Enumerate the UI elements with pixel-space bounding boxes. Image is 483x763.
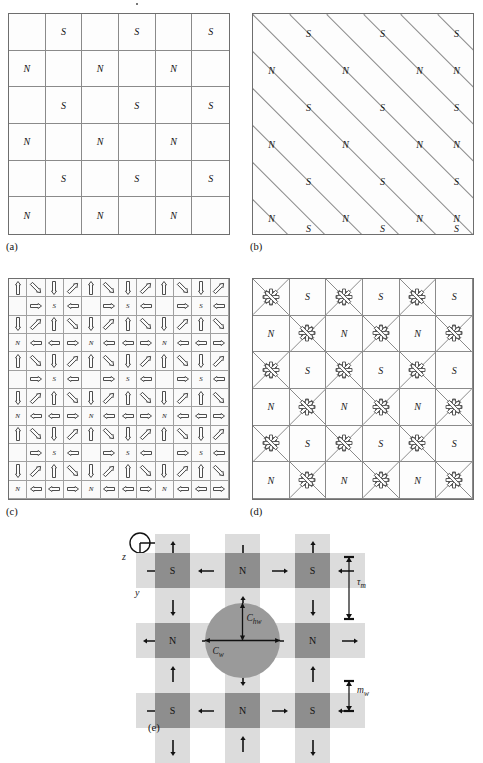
panel-d-cell: S bbox=[363, 426, 400, 463]
pole-label: S bbox=[305, 438, 310, 449]
panel-a-cell bbox=[82, 14, 119, 51]
panel-c-cell bbox=[211, 462, 229, 480]
panel-c-cell bbox=[64, 279, 82, 297]
magnetization-arrow bbox=[99, 424, 120, 445]
starburst-cell bbox=[363, 316, 399, 352]
panel-c-cell bbox=[27, 316, 45, 334]
panel-c-cell: N bbox=[9, 334, 27, 352]
panel-c-cell bbox=[156, 279, 174, 297]
pole-label: S bbox=[199, 375, 203, 383]
panel-c-cell bbox=[137, 352, 155, 370]
panel-c-cell bbox=[64, 316, 82, 334]
pole-label: N bbox=[341, 401, 348, 412]
panel-d-cell bbox=[326, 426, 363, 463]
magnetization-arrow bbox=[84, 463, 98, 478]
pole-label: S bbox=[126, 375, 130, 383]
magnetization-arrow bbox=[121, 427, 135, 442]
pole-label: S bbox=[306, 27, 311, 38]
magnetization-arrow bbox=[157, 280, 171, 295]
pole-label: S bbox=[380, 27, 385, 38]
magnetization-arrow bbox=[48, 482, 61, 496]
pole-label: S bbox=[454, 27, 459, 38]
panel-c-cell bbox=[101, 389, 119, 407]
panel-a-cell: N bbox=[82, 197, 119, 234]
panel-d-cell: N bbox=[326, 316, 363, 353]
magnetization-arrow bbox=[167, 735, 179, 757]
panel-c-cell bbox=[156, 426, 174, 444]
pole-label: S bbox=[452, 365, 457, 376]
panel-c-cell bbox=[101, 334, 119, 352]
magnetization-arrow bbox=[209, 424, 230, 445]
panel-a-cell bbox=[82, 161, 119, 198]
panel-d-cell bbox=[436, 316, 473, 353]
stray-mark bbox=[136, 3, 138, 5]
panel-c-cell: N bbox=[9, 407, 27, 425]
panel-a-cell: S bbox=[46, 87, 83, 124]
pole-label: N bbox=[453, 64, 460, 75]
magnetization-arrow bbox=[66, 336, 79, 350]
pole-label: N bbox=[89, 339, 94, 347]
panel-a-cell: N bbox=[156, 51, 193, 88]
panel-d-cell bbox=[436, 462, 473, 499]
magnetization-arrow bbox=[139, 446, 152, 460]
pole-label: S bbox=[378, 438, 383, 449]
magnetization-arrow bbox=[103, 299, 116, 313]
panel-d-cell bbox=[400, 352, 437, 389]
magnetization-arrow bbox=[172, 314, 193, 335]
magnetization-arrow bbox=[307, 735, 319, 757]
panel-d-cell: S bbox=[290, 279, 327, 316]
pole-label: N bbox=[23, 210, 30, 221]
panel-d-cell bbox=[363, 462, 400, 499]
magnetization-arrow bbox=[176, 336, 189, 350]
panel-c-cell bbox=[27, 444, 45, 462]
pole-label: N bbox=[89, 412, 94, 420]
pole-label: N bbox=[414, 401, 421, 412]
panel-c-cell bbox=[64, 426, 82, 444]
magnetization-arrow bbox=[11, 280, 25, 295]
magnetization-arrow bbox=[139, 336, 152, 350]
panel-a-cell: S bbox=[46, 161, 83, 198]
panel-c-cell bbox=[211, 389, 229, 407]
magnetization-arrow bbox=[103, 336, 116, 350]
coil-width-label: Cw bbox=[213, 646, 224, 659]
magnetization-arrow bbox=[136, 351, 157, 372]
pole-label: S bbox=[53, 449, 57, 457]
panel-a-cell: S bbox=[192, 87, 229, 124]
panel-c-cell: N bbox=[9, 481, 27, 499]
pole-label: S bbox=[306, 223, 311, 234]
pole-label: S bbox=[380, 101, 385, 112]
magnetization-arrow bbox=[26, 277, 47, 298]
pole-label: S bbox=[306, 101, 311, 112]
panel-c-cell bbox=[9, 297, 27, 315]
pole-label: S bbox=[134, 173, 139, 184]
pole-label: N bbox=[416, 64, 423, 75]
panel-c-cell bbox=[174, 334, 192, 352]
starburst-cell bbox=[326, 426, 362, 462]
panel-a-cell bbox=[46, 124, 83, 161]
panel-a-cell bbox=[46, 51, 83, 88]
pole-label: S bbox=[452, 438, 457, 449]
tau-m-label: τm bbox=[357, 577, 366, 590]
magnetization-arrow bbox=[121, 353, 135, 368]
panel-c-cell bbox=[137, 389, 155, 407]
pole-label: N bbox=[97, 63, 104, 74]
m-w-label: mw bbox=[357, 685, 369, 698]
panel-c-cell bbox=[64, 389, 82, 407]
panel-c-cell bbox=[27, 279, 45, 297]
magnetization-arrow bbox=[103, 446, 116, 460]
pole-label: N bbox=[342, 212, 349, 223]
panel-c-cell bbox=[101, 279, 119, 297]
magnetization-arrow bbox=[47, 317, 61, 332]
starburst-cell bbox=[253, 352, 289, 388]
pole-label: S bbox=[305, 365, 310, 376]
panel-c-cell bbox=[211, 297, 229, 315]
magnetization-arrow bbox=[62, 461, 83, 482]
panel-c-cell bbox=[9, 371, 27, 389]
panel-c-cell bbox=[211, 334, 229, 352]
panel-b-pole-labels: SSSNNNNSSSNNNNSSSNNNNSSS bbox=[253, 14, 473, 234]
panel-d-cell bbox=[253, 426, 290, 463]
panel-d-cell bbox=[290, 389, 327, 426]
panel-d-grid: SSSNNNSSSNNNSSSNNN bbox=[252, 278, 474, 500]
magnetization-arrow bbox=[62, 387, 83, 408]
magnetization-arrow bbox=[172, 351, 193, 372]
